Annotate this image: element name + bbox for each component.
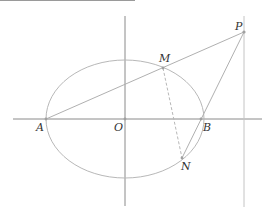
segment-pn — [182, 32, 244, 158]
segment-mn-dashed — [163, 68, 182, 158]
label-m: M — [158, 52, 171, 65]
label-o: O — [114, 121, 123, 134]
ellipse-diagram: A O B M N P — [0, 0, 280, 222]
label-p: P — [234, 20, 243, 33]
point-o — [124, 118, 127, 121]
label-b: B — [202, 121, 211, 134]
label-a: A — [35, 121, 44, 134]
point-p — [242, 30, 245, 33]
point-n — [181, 157, 184, 160]
point-a — [45, 118, 48, 121]
point-b — [200, 118, 203, 121]
segment-ap — [46, 32, 244, 119]
label-n: N — [180, 160, 191, 173]
point-m — [162, 67, 165, 70]
